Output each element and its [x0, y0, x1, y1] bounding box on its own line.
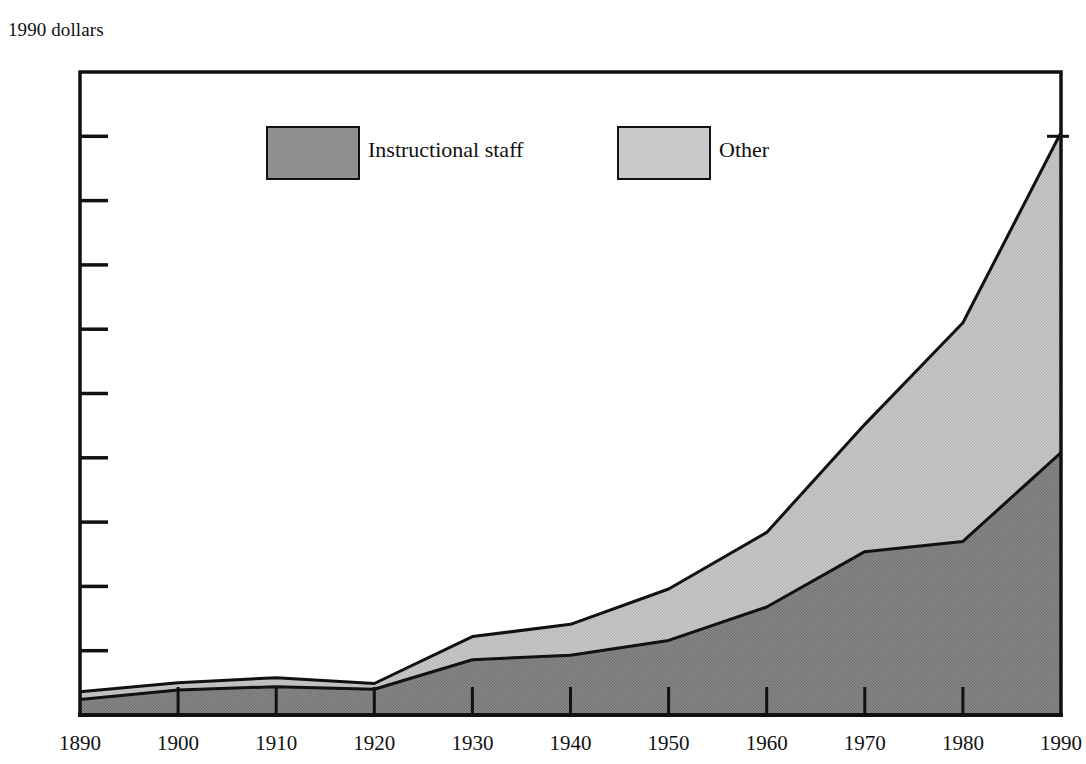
legend-label: Other — [719, 139, 769, 161]
x-axis-tick-label: 1910 — [236, 733, 316, 754]
legend-swatch — [266, 126, 360, 180]
x-axis-tick-label: 1980 — [923, 733, 1003, 754]
x-axis-tick-label: 1960 — [727, 733, 807, 754]
x-axis-tick-label: 1970 — [825, 733, 905, 754]
chart-legend: Instructional staffOther — [0, 0, 1078, 200]
legend-label: Instructional staff — [368, 139, 523, 161]
x-axis-tick-label: 1930 — [432, 733, 512, 754]
x-axis-tick-label: 1920 — [334, 733, 414, 754]
x-axis-tick-label: 1950 — [629, 733, 709, 754]
legend-swatch — [617, 126, 711, 180]
x-axis-tick-label: 1890 — [40, 733, 120, 754]
x-axis-tick-label: 1940 — [531, 733, 611, 754]
x-axis-tick-label: 1990 — [1021, 733, 1086, 754]
x-axis-tick-label: 1900 — [138, 733, 218, 754]
